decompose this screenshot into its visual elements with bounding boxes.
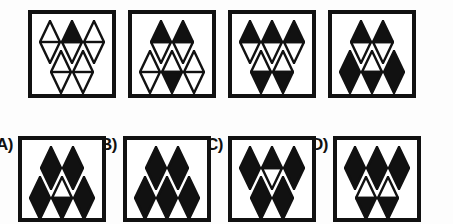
diamond-row-bottom [337, 176, 417, 220]
diamond-bottom [377, 176, 399, 220]
diamond-grid [32, 14, 112, 94]
diamond-black [156, 176, 178, 220]
diamond-white [183, 50, 205, 94]
question-panel-2 [128, 10, 216, 98]
diamond-bottom [51, 176, 73, 220]
option-d-panel[interactable] [333, 136, 421, 222]
option-c-panel[interactable] [228, 136, 316, 222]
diamond-grid [22, 140, 102, 218]
diamond-grid [232, 14, 312, 94]
diamond-bottom [355, 176, 377, 220]
diamond-grid [232, 140, 312, 218]
diamond-row-bottom [132, 50, 212, 94]
diamond-row-bottom [32, 50, 112, 94]
diamond-bottom [361, 50, 383, 94]
diamond-black [383, 50, 405, 94]
question-panel-1 [28, 10, 116, 98]
diamond-grid [132, 14, 212, 94]
diamond-grid [127, 140, 207, 218]
diamond-bottom [272, 50, 294, 94]
diamond-black [250, 176, 272, 220]
diamond-black [339, 50, 361, 94]
question-panel-4 [328, 10, 416, 98]
diamond-white [139, 50, 161, 94]
option-a-label: A) [0, 136, 13, 153]
diamond-bottom [250, 50, 272, 94]
diamond-black [272, 176, 294, 220]
diamond-white [50, 50, 72, 94]
diamond-black [73, 176, 95, 220]
diamond-row-bottom [232, 176, 312, 220]
diamond-bottom [161, 50, 183, 94]
diamond-black [29, 176, 51, 220]
puzzle-stage: A) B) C) D) [0, 0, 453, 224]
option-a-panel[interactable] [18, 136, 106, 222]
diamond-row-bottom [22, 176, 102, 220]
diamond-row-bottom [332, 50, 412, 94]
diamond-grid [332, 14, 412, 94]
diamond-black [134, 176, 156, 220]
question-panel-3 [228, 10, 316, 98]
diamond-grid [337, 140, 417, 218]
diamond-row-bottom [127, 176, 207, 220]
option-b-panel[interactable] [123, 136, 211, 222]
diamond-black [178, 176, 200, 220]
diamond-white [72, 50, 94, 94]
diamond-row-bottom [232, 50, 312, 94]
